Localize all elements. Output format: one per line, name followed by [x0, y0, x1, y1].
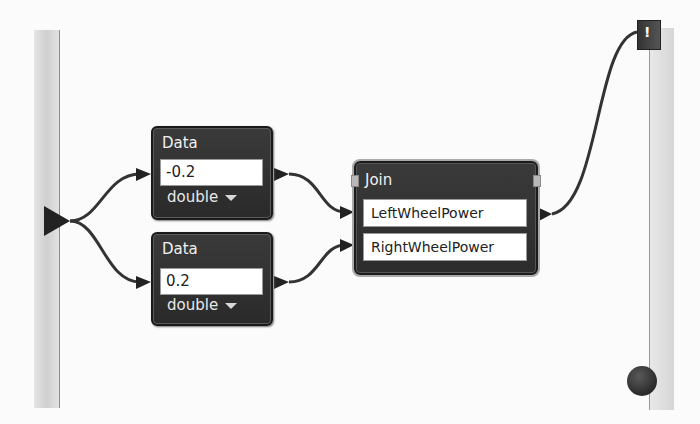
join-node-title: Join: [365, 171, 392, 189]
chevron-down-icon: [225, 195, 237, 201]
data-node-1-type-label: double: [167, 188, 218, 206]
data-node-1-value-input[interactable]: -0.2: [160, 159, 263, 186]
join-left-handle[interactable]: [351, 175, 359, 187]
data-node-2-type-dropdown[interactable]: double: [167, 296, 237, 314]
chevron-down-icon: [225, 303, 237, 309]
wire-data2-to-join: [289, 245, 345, 282]
join-field-right-wheel-power[interactable]: RightWheelPower: [363, 233, 527, 261]
data-2-output-port-icon[interactable]: [274, 276, 289, 289]
wire-join-to-output: [552, 32, 637, 214]
data-1-output-port-icon[interactable]: [274, 168, 289, 181]
wire-to-data-2: [70, 221, 140, 282]
data-node-2[interactable]: Data 0.2 double: [151, 232, 273, 326]
connection-wires: [0, 0, 700, 424]
exclamation-icon: !: [644, 24, 650, 40]
output-port[interactable]: !: [637, 20, 661, 50]
end-marker-ball[interactable]: [627, 366, 657, 396]
wire-data1-to-join: [289, 174, 345, 212]
data-node-1-title: Data: [162, 134, 198, 152]
data-node-1[interactable]: Data -0.2 double: [151, 126, 273, 220]
join-output-port-icon[interactable]: [537, 207, 552, 222]
data-node-2-title: Data: [162, 240, 198, 258]
data-node-1-type-dropdown[interactable]: double: [167, 188, 237, 206]
join-node[interactable]: Join LeftWheelPower RightWheelPower: [354, 161, 538, 275]
data-node-2-type-label: double: [167, 296, 218, 314]
join-right-handle[interactable]: [533, 175, 541, 187]
join-field-left-wheel-power[interactable]: LeftWheelPower: [363, 199, 527, 227]
data-node-2-value-input[interactable]: 0.2: [160, 268, 263, 295]
wire-to-data-1: [70, 174, 140, 221]
input-port-icon[interactable]: [44, 206, 70, 236]
